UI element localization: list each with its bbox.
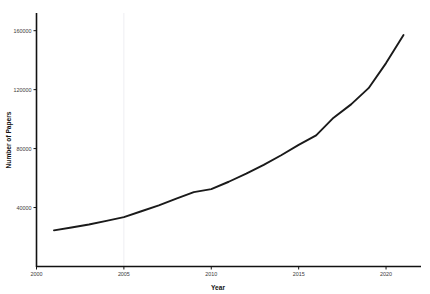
x-tick-label: 2015: [293, 271, 305, 277]
x-tick-label: 2005: [118, 271, 130, 277]
y-tick-label: 80000: [17, 146, 32, 152]
chart-container: 4000080000120000160000 20002005201020152…: [0, 0, 430, 294]
x-axis-title: Year: [211, 284, 225, 291]
x-tick-label: 2010: [205, 271, 217, 277]
y-axis-title: Number of Papers: [5, 111, 13, 168]
y-tick-label: 160000: [14, 28, 32, 34]
y-tick-label: 120000: [14, 87, 32, 93]
x-tick-label: 2000: [31, 271, 43, 277]
x-tick-label: 2020: [380, 271, 392, 277]
y-tick-label: 40000: [17, 205, 32, 211]
chart-background: [0, 0, 430, 294]
line-chart: 4000080000120000160000 20002005201020152…: [0, 0, 430, 294]
